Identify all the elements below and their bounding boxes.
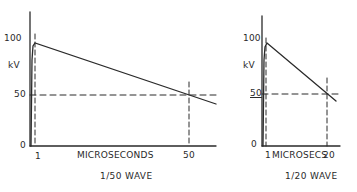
left-chart-caption: 1/50 WAVE xyxy=(100,171,153,181)
left-y-tick-0: 0 xyxy=(20,140,26,150)
left-y-axis-label: kV xyxy=(8,60,20,70)
right-y-tick-50: 50 xyxy=(250,88,262,98)
right-y-tick-0: 0 xyxy=(251,139,257,149)
right-x-tick-20: 20 xyxy=(323,150,335,160)
left-y-tick-100: 100 xyxy=(4,33,22,43)
right-y-axis-label: kV xyxy=(243,60,255,70)
left-x-tick-50: 50 xyxy=(183,150,195,160)
right-chart xyxy=(262,16,340,146)
left-x-tick-1: 1 xyxy=(35,151,41,161)
left-y-tick-50: 50 xyxy=(14,89,26,99)
left-chart xyxy=(30,12,216,146)
left-x-axis-label: MICROSECONDS xyxy=(77,150,154,160)
right-y-tick-100: 100 xyxy=(243,33,261,43)
right-chart-caption: 1/20 WAVE xyxy=(285,171,338,181)
right-x-tick-1: 1 xyxy=(265,150,271,160)
right-x-axis-label: MICROSECS xyxy=(272,150,327,160)
charts-canvas xyxy=(0,0,357,192)
